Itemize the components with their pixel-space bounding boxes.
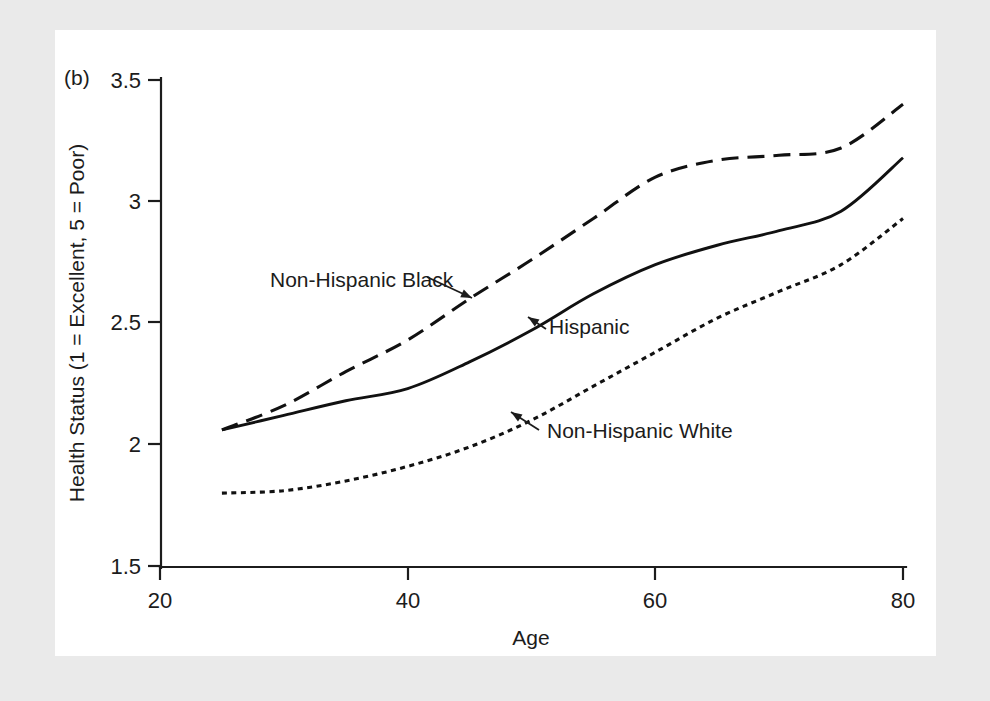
line-chart: (b) 3.5 3 2.5 2 1.5 20 40 60 80 xyxy=(0,0,990,701)
series-line-non-hispanic-white xyxy=(222,219,903,494)
x-axis-title: Age xyxy=(512,626,549,649)
panel-label: (b) xyxy=(64,66,90,89)
x-tick-label-20: 20 xyxy=(148,588,172,613)
y-tick-label-3.5: 3.5 xyxy=(110,68,141,93)
y-tick-label-3: 3 xyxy=(129,189,141,214)
x-tick-label-80: 80 xyxy=(891,588,915,613)
y-tick-label-2: 2 xyxy=(129,432,141,457)
series-line-hispanic xyxy=(222,158,903,430)
x-tick-label-60: 60 xyxy=(643,588,667,613)
annotation-arrow-head xyxy=(511,412,523,421)
annotation-arrow-head xyxy=(460,290,472,298)
y-axis-ticks xyxy=(148,80,161,566)
x-axis-ticks xyxy=(160,567,903,580)
y-axis-title: Health Status (1 = Excellent, 5 = Poor) xyxy=(65,144,88,502)
annotation-group: Non-Hispanic BlackHispanicNon-Hispanic W… xyxy=(270,268,733,442)
y-tick-label-2.5: 2.5 xyxy=(110,310,141,335)
y-tick-label-1.5: 1.5 xyxy=(110,554,141,579)
figure-page: (b) 3.5 3 2.5 2 1.5 20 40 60 80 xyxy=(0,0,990,701)
series-label-non-hispanic-black: Non-Hispanic Black xyxy=(270,268,454,291)
x-tick-label-40: 40 xyxy=(396,588,420,613)
series-label-hispanic: Hispanic xyxy=(549,315,630,338)
series-label-non-hispanic-white: Non-Hispanic White xyxy=(547,419,733,442)
